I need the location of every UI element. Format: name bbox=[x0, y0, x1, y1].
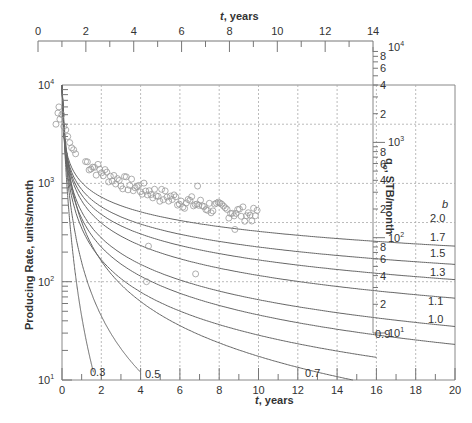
decline-curve-chart: 02468101214 t, years 02468101214161820 1… bbox=[0, 0, 472, 423]
svg-text:103: 103 bbox=[388, 135, 404, 148]
curve-label: 0.9 bbox=[375, 328, 390, 340]
svg-text:2: 2 bbox=[98, 384, 104, 396]
x-axis-title: t, years bbox=[255, 394, 294, 406]
curve-label: 2.0 bbox=[430, 212, 445, 224]
curve-label: 0.5 bbox=[145, 368, 160, 380]
svg-text:4: 4 bbox=[138, 384, 144, 396]
curve-label: 1.1 bbox=[428, 295, 443, 307]
svg-text:2: 2 bbox=[380, 108, 386, 120]
svg-text:8: 8 bbox=[216, 384, 222, 396]
svg-text:4: 4 bbox=[380, 270, 386, 282]
decline-curve bbox=[62, 85, 353, 380]
svg-text:102: 102 bbox=[38, 275, 54, 288]
svg-text:20: 20 bbox=[449, 384, 461, 396]
svg-text:12: 12 bbox=[319, 25, 331, 37]
curve-label: 1.3 bbox=[430, 266, 445, 278]
top-axis: 02468101214 t, years bbox=[35, 10, 379, 52]
svg-text:0: 0 bbox=[35, 25, 41, 37]
svg-text:104: 104 bbox=[38, 78, 54, 91]
right-axis-title: qo, STB/month bbox=[381, 158, 396, 235]
y-axis-title: Producing Rate, units/month bbox=[23, 179, 35, 330]
svg-text:6: 6 bbox=[380, 253, 386, 265]
curve-label: 0.7 bbox=[305, 367, 320, 379]
top-axis-title: t, years bbox=[220, 10, 259, 22]
svg-text:18: 18 bbox=[410, 384, 422, 396]
curve-label: 1.0 bbox=[428, 313, 443, 325]
svg-text:104: 104 bbox=[388, 40, 404, 53]
legend-title-b: b bbox=[442, 198, 448, 210]
svg-text:103: 103 bbox=[38, 176, 54, 189]
svg-text:8: 8 bbox=[226, 25, 232, 37]
svg-text:14: 14 bbox=[331, 384, 343, 396]
svg-text:0: 0 bbox=[59, 384, 65, 396]
svg-text:8: 8 bbox=[380, 146, 386, 158]
svg-text:16: 16 bbox=[370, 384, 382, 396]
svg-text:6: 6 bbox=[380, 62, 386, 74]
svg-text:101: 101 bbox=[38, 373, 54, 386]
svg-text:2: 2 bbox=[380, 298, 386, 310]
svg-text:6: 6 bbox=[179, 25, 185, 37]
svg-text:10: 10 bbox=[271, 25, 283, 37]
svg-text:4: 4 bbox=[380, 79, 386, 91]
svg-text:101: 101 bbox=[388, 326, 404, 339]
svg-text:8: 8 bbox=[380, 241, 386, 253]
svg-text:6: 6 bbox=[177, 384, 183, 396]
svg-text:2: 2 bbox=[83, 25, 89, 37]
curve-label: 1.7 bbox=[430, 231, 445, 243]
svg-text:14: 14 bbox=[367, 25, 379, 37]
svg-text:8: 8 bbox=[380, 50, 386, 62]
svg-text:4: 4 bbox=[131, 25, 137, 37]
curve-label: 0.3 bbox=[90, 366, 105, 378]
curve-label: 1.5 bbox=[430, 247, 445, 259]
